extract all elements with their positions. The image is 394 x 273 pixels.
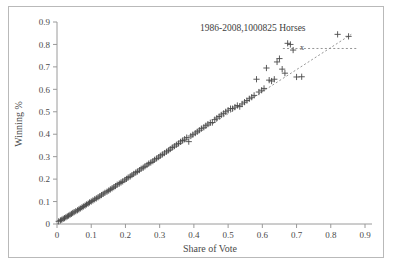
y-tick-label: 0.6	[39, 85, 51, 95]
data-point-marker	[290, 47, 296, 53]
annotation-label: 1986-2008,1000825 Horses	[200, 23, 306, 33]
x-axis-ticks: 00.10.20.30.40.50.60.70.80.9	[55, 224, 371, 240]
y-tick-label: 0.2	[39, 174, 50, 184]
x-tick-label: 0.4	[188, 230, 200, 240]
x-tick-label: 0.3	[154, 230, 166, 240]
data-point-marker	[253, 76, 259, 82]
data-point-marker	[335, 31, 341, 37]
data-points	[56, 31, 352, 224]
scatter-plot: 00.10.20.30.40.50.60.70.80.9 00.10.20.30…	[0, 0, 394, 273]
y-tick-label: 0.1	[39, 197, 50, 207]
y-tick-label: 0.5	[39, 107, 51, 117]
x-tick-label: 0.5	[222, 230, 234, 240]
x-tick-label: 0	[55, 230, 60, 240]
y-tick-label: 0.9	[39, 17, 51, 27]
y-tick-label: 0	[46, 219, 51, 229]
x-tick-label: 0.6	[257, 230, 269, 240]
x-tick-label: 0.8	[325, 230, 337, 240]
y-axis-title: Winning %	[13, 101, 24, 146]
x-tick-label: 0.7	[291, 230, 303, 240]
chart-figure: 00.10.20.30.40.50.60.70.80.9 00.10.20.30…	[0, 0, 394, 273]
data-point-marker	[287, 41, 293, 47]
y-axis-ticks: 00.10.20.30.40.50.60.70.80.9	[39, 17, 57, 229]
data-point-marker	[279, 66, 285, 72]
x-tick-label: 0.1	[86, 230, 97, 240]
x-tick-label: 0.2	[120, 230, 131, 240]
y-tick-label: 0.7	[39, 62, 51, 72]
data-point-marker	[299, 74, 305, 80]
x-tick-label: 0.9	[359, 230, 371, 240]
y-tick-label: 0.4	[39, 129, 51, 139]
data-point-marker	[285, 40, 291, 46]
y-tick-label: 0.3	[39, 152, 51, 162]
data-point-marker	[263, 65, 269, 71]
x-axis-title: Share of Vote	[183, 243, 238, 254]
point-x-label: x	[300, 43, 304, 52]
y-tick-label: 0.8	[39, 40, 51, 50]
